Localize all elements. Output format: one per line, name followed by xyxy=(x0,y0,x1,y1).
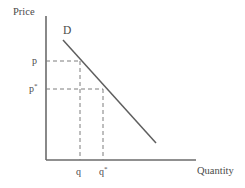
asterisk-icon: * xyxy=(104,165,108,173)
x-axis-label: Quantity xyxy=(197,166,234,177)
quantity-tick-label-q-star: q* xyxy=(99,167,108,177)
asterisk-icon: * xyxy=(34,82,38,90)
demand-curve-line xyxy=(63,40,156,143)
diagram-canvas xyxy=(0,0,245,188)
quantity-tick-label-q: q xyxy=(76,167,81,177)
price-tick-label-p-star: p* xyxy=(29,84,38,94)
demand-curve-label: D xyxy=(63,25,71,37)
y-axis-label: Price xyxy=(13,7,35,18)
price-tick-label-p: p xyxy=(32,56,37,66)
demand-curve-figure: Price Quantity D p p* q q* xyxy=(0,0,245,188)
